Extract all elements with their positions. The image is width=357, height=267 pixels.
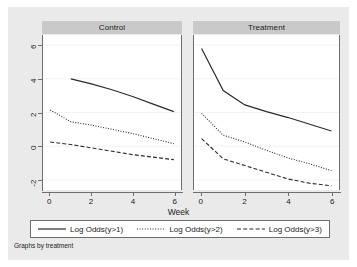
x-tick-mark xyxy=(175,192,176,196)
plot-area-control xyxy=(42,35,182,190)
series-line xyxy=(202,139,332,186)
y-tick-mark xyxy=(38,146,42,147)
legend-key-dotted xyxy=(137,225,165,233)
legend-label: Log Odds(y>2) xyxy=(169,225,222,234)
x-tick-mark xyxy=(49,192,50,196)
y-tick-label: 4 xyxy=(29,78,38,106)
legend-item[interactable]: Log Odds(y>3) xyxy=(237,225,322,234)
series-line xyxy=(50,142,174,160)
series-line xyxy=(71,79,174,112)
y-tick-mark xyxy=(38,180,42,181)
y-tick-label: 0 xyxy=(29,146,38,174)
x-axis-title: Week xyxy=(8,207,349,217)
chart-legend: Log Odds(y>1)Log Odds(y>2)Log Odds(y>3) xyxy=(30,220,330,238)
x-tick-mark xyxy=(332,192,333,196)
y-tick-label: -2 xyxy=(29,179,38,207)
legend-label: Log Odds(y>1) xyxy=(70,225,123,234)
x-tick-label: 0 xyxy=(39,197,59,206)
legend-key-dashed xyxy=(237,225,265,233)
series-line xyxy=(202,48,332,131)
x-axis-line-control xyxy=(42,192,183,193)
series-line xyxy=(202,113,332,170)
y-tick-mark xyxy=(38,45,42,46)
y-tick-mark xyxy=(38,79,42,80)
series-line xyxy=(50,110,174,144)
y-axis-line xyxy=(42,35,43,191)
chart-figure: Control Treatment 6420-2 02460246 Week L… xyxy=(8,7,349,260)
y-tick-label: 6 xyxy=(29,45,38,73)
legend-label: Log Odds(y>3) xyxy=(269,225,322,234)
x-tick-label: 2 xyxy=(235,197,255,206)
legend-item[interactable]: Log Odds(y>1) xyxy=(38,225,123,234)
legend-key-solid xyxy=(38,225,66,233)
x-tick-mark xyxy=(201,192,202,196)
x-tick-mark xyxy=(133,192,134,196)
y-tick-mark xyxy=(38,113,42,114)
x-tick-label: 6 xyxy=(165,197,185,206)
panel-title-control: Control xyxy=(42,21,182,34)
x-axis-line-treatment xyxy=(193,192,341,193)
plot-svg-control xyxy=(43,35,181,190)
panel-title-treatment: Treatment xyxy=(193,21,340,34)
x-tick-label: 2 xyxy=(81,197,101,206)
x-tick-label: 4 xyxy=(123,197,143,206)
chart-footnote: Graphs by treatment xyxy=(14,242,73,249)
plot-svg-treatment xyxy=(194,35,339,190)
x-tick-mark xyxy=(288,192,289,196)
x-tick-label: 0 xyxy=(191,197,211,206)
x-tick-mark xyxy=(245,192,246,196)
legend-item[interactable]: Log Odds(y>2) xyxy=(137,225,222,234)
x-tick-label: 6 xyxy=(322,197,342,206)
y-tick-label: 2 xyxy=(29,112,38,140)
plot-area-treatment xyxy=(193,35,340,190)
x-tick-label: 4 xyxy=(278,197,298,206)
x-tick-mark xyxy=(91,192,92,196)
